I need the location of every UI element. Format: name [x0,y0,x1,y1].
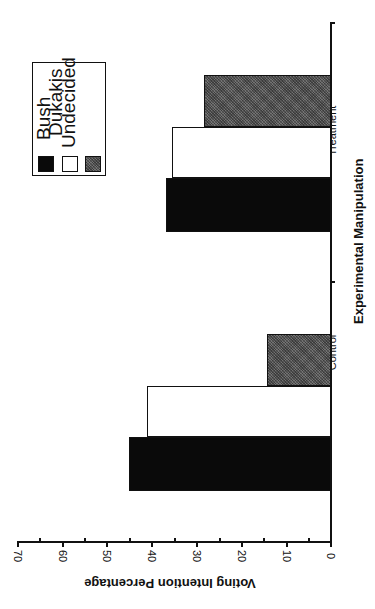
tick-label-30: 30 [191,546,203,566]
tick-label-20: 20 [236,546,248,566]
minor-tick-65 [39,538,41,542]
tick-label-0: 0 [325,546,337,566]
bar-treatment-bush [166,178,331,232]
bar-control-dukakis [147,386,331,437]
bar-control-bush [129,437,331,491]
tick-label-10: 10 [281,546,293,566]
tick-label-70: 70 [12,546,24,566]
legend-swatch-undecided [85,156,101,172]
category-axis-end-tick [331,22,335,24]
minor-tick-5 [308,538,310,542]
category-axis-mid-tick [331,281,335,283]
bar-chart: 70 60 50 40 30 20 10 0 Voting Intention … [0,0,375,609]
legend-swatch-bush [38,156,54,172]
bar-treatment-dukakis [172,127,331,178]
legend: Bush Dukakis Undecided [32,62,106,176]
tick-label-40: 40 [146,546,158,566]
bar-treatment-undecided [204,75,331,127]
legend-swatch-dukakis [62,156,78,172]
tick-label-50: 50 [101,546,113,566]
tick-label-60: 60 [57,546,69,566]
value-axis-title: Voting Intention Percentage [60,575,280,591]
legend-label-undecided: Undecided [58,40,80,148]
minor-tick-15 [263,538,265,542]
minor-tick-25 [219,538,221,542]
category-axis-title: Experimental Manipulation [351,164,367,324]
bar-control-undecided [267,334,331,386]
minor-tick-45 [129,538,131,542]
minor-tick-55 [84,538,86,542]
minor-tick-35 [174,538,176,542]
